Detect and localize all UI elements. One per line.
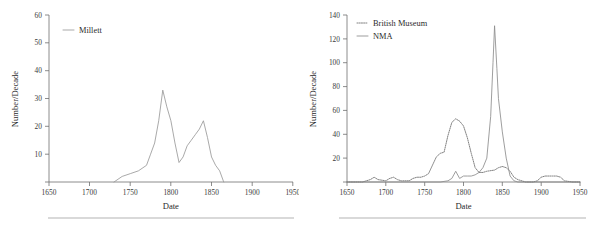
left-chart-svg: 10 20 30 40 50 60 1650 1700 1750 1800 — [0, 0, 299, 229]
right-chart-svg: 20 40 60 80 100 120 140 1650 1700 1750 — [299, 0, 599, 229]
left-x-ticks: 1650 1700 1750 1800 1850 1900 1950 — [42, 182, 299, 197]
left-xtick-1850: 1850 — [204, 188, 219, 197]
right-xtick-1750: 1750 — [417, 188, 432, 197]
right-ytick-20: 20 — [333, 154, 341, 163]
chart-panel-right: 20 40 60 80 100 120 140 1650 1700 1750 — [299, 0, 599, 229]
left-ytick-50: 50 — [35, 38, 43, 47]
series-line-nma — [347, 26, 580, 182]
figure-container: 10 20 30 40 50 60 1650 1700 1750 1800 — [0, 0, 599, 229]
left-xtick-1900: 1900 — [245, 188, 260, 197]
right-ytick-60: 60 — [333, 106, 341, 115]
right-legend-label-nma: NMA — [373, 32, 393, 41]
right-legend-label-british-museum: British Museum — [373, 19, 428, 28]
right-ytick-80: 80 — [333, 82, 341, 91]
left-ytick-20: 20 — [35, 122, 43, 131]
left-ytick-30: 30 — [35, 94, 43, 103]
right-ytick-40: 40 — [333, 130, 341, 139]
right-xtick-1950: 1950 — [573, 188, 588, 197]
left-ytick-10: 10 — [35, 150, 43, 159]
left-xtick-1950: 1950 — [285, 188, 299, 197]
right-y-axis-title: Number/Decade — [308, 71, 318, 127]
right-x-axis-title: Date — [455, 201, 471, 211]
chart-panel-left: 10 20 30 40 50 60 1650 1700 1750 1800 — [0, 0, 299, 229]
right-xtick-1700: 1700 — [378, 188, 393, 197]
series-line-millett — [114, 90, 224, 182]
right-xtick-1650: 1650 — [340, 188, 355, 197]
left-xtick-1800: 1800 — [163, 188, 178, 197]
left-xtick-1750: 1750 — [123, 188, 138, 197]
right-legend: British Museum NMA — [357, 19, 428, 41]
left-ytick-60: 60 — [35, 11, 43, 20]
left-y-ticks: 10 20 30 40 50 60 — [35, 11, 49, 182]
left-legend: Millett — [63, 26, 102, 35]
right-y-ticks: 20 40 60 80 100 120 140 — [329, 11, 347, 182]
right-xtick-1850: 1850 — [495, 188, 510, 197]
right-x-ticks: 1650 1700 1750 1800 1850 1900 1950 — [340, 182, 588, 197]
right-xtick-1800: 1800 — [456, 188, 471, 197]
left-xtick-1700: 1700 — [82, 188, 97, 197]
left-y-axis-title: Number/Decade — [10, 71, 20, 127]
right-ytick-100: 100 — [329, 58, 340, 67]
left-ytick-40: 40 — [35, 66, 43, 75]
left-x-axis-title: Date — [163, 201, 179, 211]
right-ytick-140: 140 — [329, 11, 340, 20]
left-legend-label-millett: Millett — [79, 26, 102, 35]
left-xtick-1650: 1650 — [42, 188, 57, 197]
right-series-group — [347, 26, 580, 182]
series-line-british-museum — [347, 119, 580, 182]
left-series-group — [114, 90, 224, 182]
right-xtick-1900: 1900 — [534, 188, 549, 197]
right-ytick-120: 120 — [329, 35, 340, 44]
